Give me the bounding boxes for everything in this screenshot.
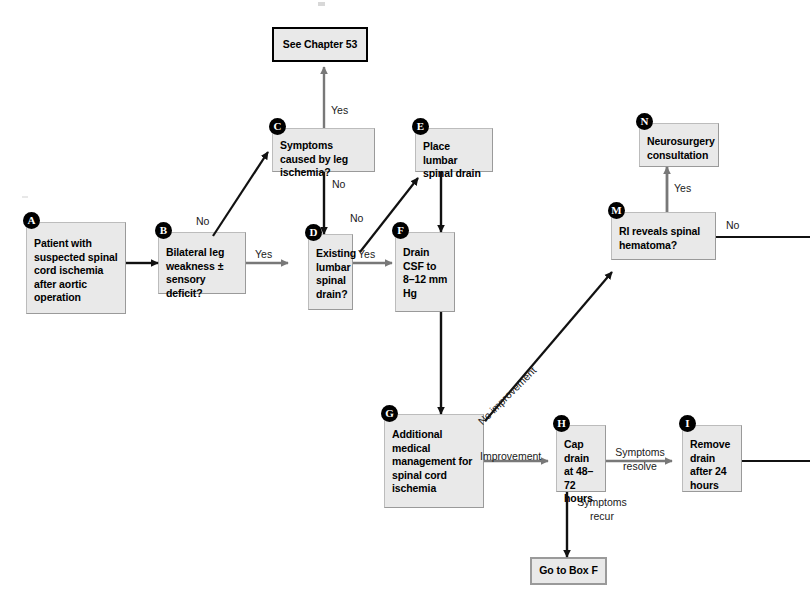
edge-label-b-to-d: Yes <box>255 248 272 260</box>
node-i-remove-drain[interactable]: Remove drain after 24 hours <box>682 425 742 492</box>
node-label: RI reveals spinal hematoma? <box>619 225 700 251</box>
edge-label-d-to-f: Yes <box>358 248 375 260</box>
scan-artifact <box>318 2 325 6</box>
node-label: Drain CSF to 8–12 mm Hg <box>403 246 447 299</box>
node-label: Existing lumbar spinal drain? <box>316 247 356 300</box>
badge-f: F <box>392 222 409 239</box>
node-m-ri-reveals-spinal-hematoma[interactable]: RI reveals spinal hematoma? <box>611 212 716 260</box>
node-label: Patient with suspected spinal cord ische… <box>34 237 118 303</box>
node-c-symptoms-caused-by-leg-ischemia[interactable]: Symptoms caused by leg ischemia? <box>272 128 375 172</box>
edge-label-m-to-n: Yes <box>674 182 691 194</box>
node-label: Additional medical management for spinal… <box>392 428 472 494</box>
node-label: Neurosurgery consultation <box>647 135 715 161</box>
badge-m: M <box>608 202 625 219</box>
edge-label-h-to-i: Symptoms resolve <box>612 445 668 473</box>
node-go-to-box-f[interactable]: Go to Box F <box>530 557 607 585</box>
badge-h: H <box>553 415 570 432</box>
edge-label-h-to-box-f: Symptoms recur <box>575 495 629 523</box>
badge-c: C <box>269 118 286 135</box>
badge-e: E <box>412 118 429 135</box>
node-label: Go to Box F <box>539 564 597 578</box>
badge-d: D <box>305 224 322 241</box>
badge-a: A <box>23 212 40 229</box>
edge-label-c-to-chapter: Yes <box>331 104 348 116</box>
node-g-additional-medical-management[interactable]: Additional medical management for spinal… <box>384 414 484 508</box>
edge-label-g-to-m: No improvement <box>476 364 539 427</box>
node-label: Place lumbar spinal drain <box>423 140 481 179</box>
node-see-chapter-53[interactable]: See Chapter 53 <box>272 27 368 62</box>
node-label: See Chapter 53 <box>283 38 357 52</box>
node-n-neurosurgery-consultation[interactable]: Neurosurgery consultation <box>639 123 719 167</box>
badge-g: G <box>381 405 398 422</box>
node-label: Remove drain after 24 hours <box>690 438 730 491</box>
edge-label-d-to-e: No <box>350 212 363 224</box>
node-h-cap-drain[interactable]: Cap drain at 48–72 hours <box>556 425 606 492</box>
node-d-existing-lumbar-spinal-drain[interactable]: Existing lumbar spinal drain? <box>308 234 353 310</box>
node-e-place-lumbar-spinal-drain[interactable]: Place lumbar spinal drain <box>415 128 493 172</box>
edge-label-b-to-c: No <box>196 215 209 227</box>
edge-label-c-to-d: No <box>332 178 345 190</box>
badge-n: N <box>636 113 653 130</box>
node-f-drain-csf[interactable]: Drain CSF to 8–12 mm Hg <box>395 232 455 312</box>
node-a-patient-with-suspected-spinal-cord-ischemia[interactable]: Patient with suspected spinal cord ische… <box>26 222 126 314</box>
scan-artifact <box>22 196 28 198</box>
node-label: Bilateral leg weakness ± sensory deficit… <box>166 246 224 299</box>
node-label: Symptoms caused by leg ischemia? <box>280 139 348 178</box>
badge-b: B <box>155 222 172 239</box>
flowchart-canvas: See Chapter 53 A Patient with suspected … <box>0 0 810 606</box>
edge-label-g-to-h: Improvement <box>480 450 541 462</box>
node-b-bilateral-leg-weakness[interactable]: Bilateral leg weakness ± sensory deficit… <box>158 232 246 294</box>
badge-i: I <box>679 415 696 432</box>
edge-label-m-no: No <box>726 219 739 231</box>
